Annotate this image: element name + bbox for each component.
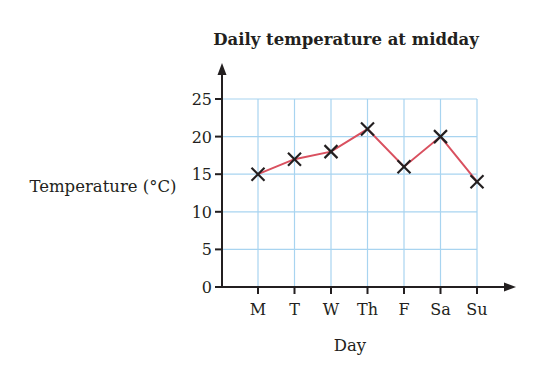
x-tick-label: F bbox=[398, 300, 409, 319]
x-tick-label: Su bbox=[466, 300, 487, 319]
x-tick-label: Th bbox=[357, 300, 378, 319]
y-tick-label: 10 bbox=[192, 203, 212, 222]
x-axis-arrow-icon bbox=[504, 283, 516, 292]
y-tick-label: 25 bbox=[192, 90, 212, 109]
x-ticks: MTWThFSaSu bbox=[250, 287, 488, 319]
y-ticks: 0510152025 bbox=[192, 90, 222, 297]
gridlines bbox=[222, 99, 477, 287]
x-tick-label: M bbox=[250, 300, 266, 319]
chart-title: Daily temperature at midday bbox=[213, 30, 479, 49]
y-axis-label: Temperature (°C) bbox=[29, 177, 176, 196]
x-axis-label: Day bbox=[334, 336, 367, 355]
y-tick-label: 15 bbox=[192, 165, 212, 184]
y-tick-label: 5 bbox=[202, 240, 212, 259]
x-tick-label: W bbox=[323, 300, 340, 319]
y-tick-label: 0 bbox=[202, 278, 212, 297]
y-axis-arrow-icon bbox=[218, 63, 227, 75]
x-tick-label: Sa bbox=[430, 300, 451, 319]
line-chart: Daily temperature at midday 0510152025 M… bbox=[0, 0, 535, 380]
x-tick-label: T bbox=[289, 300, 300, 319]
y-tick-label: 20 bbox=[192, 128, 212, 147]
